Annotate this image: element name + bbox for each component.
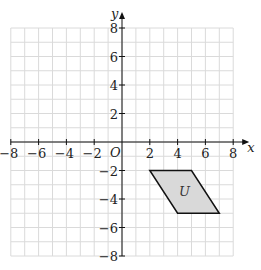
x-axis-label: x bbox=[247, 140, 255, 155]
y-tick-label: 2 bbox=[110, 107, 118, 122]
y-axis-arrow-icon bbox=[119, 12, 125, 19]
x-tick-label: 8 bbox=[229, 146, 237, 161]
y-tick-label: 4 bbox=[110, 78, 118, 93]
x-tick-label: 2 bbox=[146, 146, 154, 161]
y-tick-label: −4 bbox=[99, 192, 118, 207]
coordinate-grid: U −8−6−4−224688642−2−4−6−8 x y O bbox=[0, 0, 261, 270]
x-tick-label: −6 bbox=[27, 146, 46, 161]
x-tick-label: −2 bbox=[83, 146, 102, 161]
axes bbox=[11, 12, 249, 256]
x-tick-label: −4 bbox=[55, 146, 74, 161]
shape-u-label: U bbox=[179, 184, 191, 199]
x-tick-label: −8 bbox=[0, 146, 18, 161]
x-tick-label: 6 bbox=[201, 146, 209, 161]
y-tick-label: −8 bbox=[99, 249, 118, 264]
y-tick-label: 6 bbox=[110, 50, 118, 65]
origin-label: O bbox=[110, 145, 121, 160]
y-tick-label: −6 bbox=[99, 221, 118, 236]
y-axis-label: y bbox=[110, 6, 119, 21]
y-tick-label: −2 bbox=[99, 164, 118, 179]
y-tick-label: 8 bbox=[110, 21, 118, 36]
x-tick-label: 4 bbox=[173, 146, 181, 161]
